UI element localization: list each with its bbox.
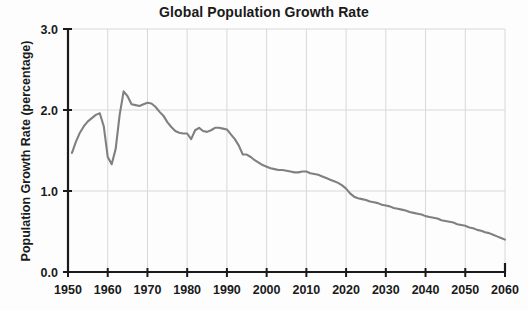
y-tick-label: 1.0 bbox=[41, 185, 58, 199]
y-tick-labels: 0.01.02.03.0 bbox=[41, 23, 58, 280]
plot-area: 0.01.02.03.0 195019601970198019902000201… bbox=[0, 0, 528, 311]
x-tick-labels: 1950196019701980199020002010202020302040… bbox=[54, 283, 519, 297]
vertical-gridlines bbox=[108, 29, 505, 272]
x-tick-label: 1970 bbox=[134, 283, 162, 297]
x-tick-label: 1950 bbox=[54, 283, 82, 297]
x-tick-label: 2000 bbox=[253, 283, 281, 297]
x-tick-label: 2060 bbox=[491, 283, 519, 297]
population-growth-chart: Global Population Growth Rate Population… bbox=[0, 0, 528, 311]
x-tick-label: 1990 bbox=[213, 283, 241, 297]
x-tick-label: 2050 bbox=[451, 283, 479, 297]
x-tick-label: 1960 bbox=[94, 283, 122, 297]
x-tick-label: 2030 bbox=[372, 283, 400, 297]
x-tick-label: 2020 bbox=[332, 283, 360, 297]
x-tick-label: 2010 bbox=[292, 283, 320, 297]
horizontal-gridlines bbox=[68, 29, 505, 191]
axis-lines bbox=[68, 29, 505, 272]
data-series-group bbox=[72, 91, 505, 239]
series-line bbox=[72, 91, 505, 239]
x-tick-label: 2040 bbox=[412, 283, 440, 297]
y-tick-label: 3.0 bbox=[41, 23, 58, 37]
y-tick-label: 0.0 bbox=[41, 266, 58, 280]
x-tick-label: 1980 bbox=[173, 283, 201, 297]
y-tick-label: 2.0 bbox=[41, 104, 58, 118]
